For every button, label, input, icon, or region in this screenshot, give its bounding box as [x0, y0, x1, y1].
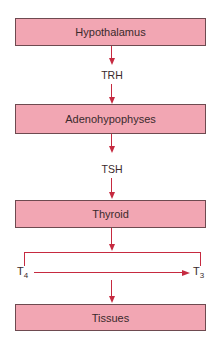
arrow-down-icon	[109, 146, 115, 153]
arrow-down-icon	[109, 296, 115, 303]
edge-label-trh: TRH	[92, 69, 132, 81]
arrow-line	[111, 84, 112, 98]
t3-label: T3	[193, 265, 204, 280]
node-label: Hypothalamus	[75, 26, 145, 38]
bracket-top	[24, 252, 201, 253]
node-label: Tissues	[92, 312, 130, 324]
bracket-right	[200, 252, 201, 266]
node-thyroid: Thyroid	[15, 200, 206, 228]
arrow-line	[111, 178, 112, 193]
node-hypothalamus: Hypothalamus	[15, 18, 206, 46]
arrow-down-icon	[109, 244, 115, 251]
arrow-down-icon	[109, 58, 115, 65]
node-tissues: Tissues	[15, 304, 206, 331]
t4-label: T4	[17, 265, 28, 280]
arrow-line	[111, 228, 112, 245]
bracket-left	[24, 252, 25, 266]
edge-label-tsh: TSH	[92, 163, 132, 175]
arrow-down-icon	[109, 192, 115, 199]
arrow-line	[111, 280, 112, 297]
conversion-arrow-line	[34, 272, 184, 273]
node-label: Adenohypophyses	[65, 113, 156, 125]
node-label: Thyroid	[92, 208, 129, 220]
node-adenohypophyses: Adenohypophyses	[15, 104, 206, 134]
arrow-right-icon	[182, 270, 190, 276]
arrow-down-icon	[109, 97, 115, 104]
